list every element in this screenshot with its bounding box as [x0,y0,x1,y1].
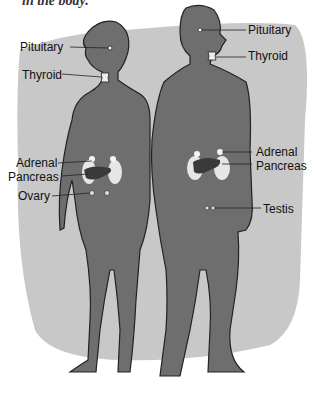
female-ovary-left [90,191,95,196]
label-female-adrenal: Adrenal [16,157,57,169]
female-pituitary-gland [108,46,112,50]
label-female-pancreas: Pancreas [8,171,59,183]
male-adrenal-left [194,151,200,157]
male-thyroid-gland [208,52,216,60]
label-male-thyroid: Thyroid [248,50,288,62]
female-thyroid-gland [101,73,109,82]
male-testis-left [205,206,209,210]
label-male-adrenal: Adrenal [256,146,297,158]
female-adrenal-right [110,156,116,162]
male-testis-right [211,206,215,210]
label-male-pancreas: Pancreas [256,160,307,172]
label-female-pituitary: Pituitary [20,41,63,53]
male-pituitary-gland [198,28,202,32]
female-ovary-right [105,191,110,196]
label-male-testis: Testis [263,203,294,215]
label-male-pituitary: Pituitary [248,24,291,36]
label-female-ovary: Ovary [18,190,50,202]
label-female-thyroid: Thyroid [22,69,62,81]
